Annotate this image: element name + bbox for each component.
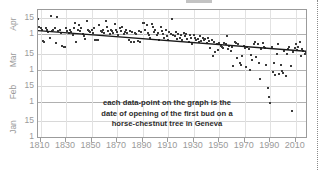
x-axis-tick-mark bbox=[218, 138, 219, 142]
x-axis-tick-mark bbox=[142, 138, 143, 142]
right-dotted-border bbox=[317, 0, 318, 170]
x-axis-tick-mark bbox=[269, 138, 270, 142]
plot-area: each data-point on the graph is thedate … bbox=[37, 9, 307, 138]
annotation-line-1: each data-point on the graph is the bbox=[56, 98, 278, 109]
x-axis-tick-mark bbox=[295, 138, 296, 142]
x-axis-tick-mark bbox=[40, 138, 41, 142]
x-axis-tick-mark bbox=[116, 138, 117, 142]
y-axis-month-label: Jan bbox=[8, 114, 18, 140]
chart-screenshot: 151151151151AprMarFebJan each data-point… bbox=[0, 0, 321, 170]
chart-annotation: each data-point on the graph is thedate … bbox=[56, 98, 278, 130]
x-axis-tick-mark bbox=[91, 138, 92, 142]
x-axis-tick-mark bbox=[167, 138, 168, 142]
x-axis-tick-mark bbox=[244, 138, 245, 142]
y-axis-month-label: Mar bbox=[8, 47, 18, 73]
x-axis: 1810183018501870189019101930195019701990… bbox=[0, 140, 321, 156]
x-axis-tick-mark bbox=[193, 138, 194, 142]
horizontal-gridline bbox=[38, 137, 306, 138]
y-axis-month-label: Feb bbox=[8, 79, 18, 105]
annotation-line-3: horse-chestnut tree in Geneva bbox=[56, 119, 278, 130]
cutoff-title-sliver bbox=[186, 0, 212, 3]
x-axis-tick-mark bbox=[65, 138, 66, 142]
annotation-line-2: date of opening of the first bud on a bbox=[56, 109, 278, 120]
y-axis-month-label: Apr bbox=[8, 11, 18, 37]
